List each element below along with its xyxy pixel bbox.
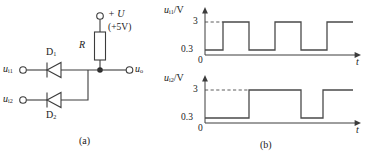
circuit-diagram-panel: ui1 ui2 uo D1 D2 R + U (+5V) (a) xyxy=(0,0,170,160)
plot-ui2-waveform xyxy=(205,90,353,118)
plot-ui2-ylabel-unit: /V xyxy=(174,72,184,83)
resistor-body xyxy=(95,32,106,60)
diode1-subscript: 1 xyxy=(53,50,56,57)
plot-ui1-ytick-03: 0.3 xyxy=(181,45,193,55)
input2-label: ui2 xyxy=(3,94,13,105)
diode2-subscript: 2 xyxy=(53,113,56,120)
resistor-label: R xyxy=(79,40,85,50)
diode1-label: D1 xyxy=(46,47,56,58)
plot-ui2-ytick-03: 0.3 xyxy=(181,113,193,123)
diode2-triangle xyxy=(47,93,61,108)
figure-root: ui1 ui2 uo D1 D2 R + U (+5V) (a) xyxy=(0,0,371,160)
plot-ui1-origin: 0 xyxy=(198,56,203,66)
diode1-triangle xyxy=(47,63,61,78)
plot-ui1-ytick-3: 3 xyxy=(193,17,198,27)
plot-ui1-waveform xyxy=(205,22,353,50)
input1-subscript: i1 xyxy=(8,67,13,74)
output-label: uo xyxy=(135,64,143,75)
supply-value-label: (+5V) xyxy=(108,23,131,33)
supply-label: + U xyxy=(108,9,124,19)
input2-terminal-node xyxy=(20,97,27,104)
input1-terminal-node xyxy=(20,67,27,74)
diode2-wire-to-node xyxy=(61,70,88,100)
caption-b: (b) xyxy=(260,140,272,150)
plot-ui1-ylabel-unit: /V xyxy=(174,4,184,15)
plot-ui1-ylabel: ui1/V xyxy=(164,5,184,16)
plot-ui2-origin: 0 xyxy=(198,124,203,134)
input1-label: ui1 xyxy=(3,64,13,75)
plot-ui1-xlabel: t xyxy=(356,57,359,67)
output-subscript: o xyxy=(140,67,143,74)
supply-terminal-node xyxy=(97,13,104,20)
diode2-label: D2 xyxy=(46,110,56,121)
plot-ui2-yaxis-arrow-icon xyxy=(202,75,208,81)
plot-ui1-svg xyxy=(160,0,371,70)
plot-ui2-xlabel: t xyxy=(356,125,359,135)
input2-subscript: i2 xyxy=(8,97,13,104)
caption-a: (a) xyxy=(79,136,90,146)
output-terminal-node xyxy=(126,67,133,74)
plot-ui2-ytick-3: 3 xyxy=(193,85,198,95)
plot-ui1-yaxis-arrow-icon xyxy=(202,7,208,13)
plot-ui2-ylabel: ui2/V xyxy=(164,73,184,84)
plot-ui2: ui2/V 3 0.3 0 t xyxy=(160,68,371,138)
plot-ui2-svg xyxy=(160,68,371,138)
plot-ui1: ui1/V 3 0.3 0 t xyxy=(160,0,371,70)
waveform-panel: ui1/V 3 0.3 0 t ui2/V 3 0.3 0 t (b xyxy=(160,0,371,160)
